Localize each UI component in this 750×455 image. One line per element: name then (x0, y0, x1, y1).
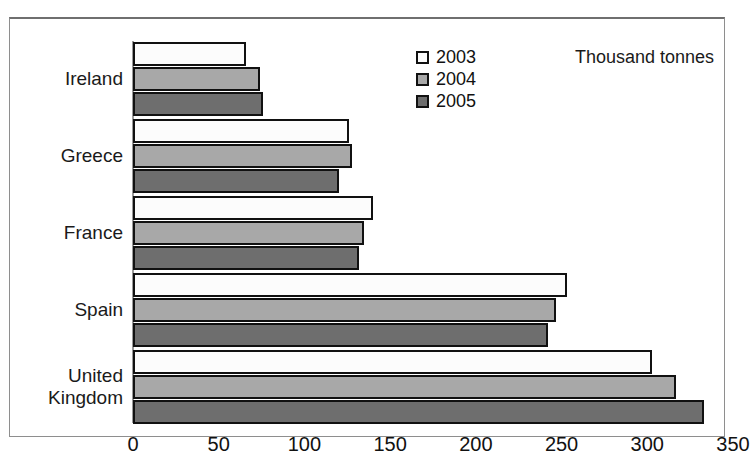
chart-frame: IrelandGreeceFranceSpainUnitedKingdom 20… (9, 17, 725, 437)
legend-item: 2003 (416, 46, 476, 68)
bar (133, 273, 567, 297)
x-axis-tick-label: 100 (288, 433, 321, 455)
bar (133, 323, 548, 347)
legend: 200320042005 (416, 46, 476, 112)
bar (133, 42, 246, 66)
legend-item: 2004 (416, 68, 476, 90)
bar-group: France (133, 195, 733, 272)
x-axis-tick-label: 350 (716, 433, 749, 455)
bar-group: UnitedKingdom (133, 349, 733, 426)
bar (133, 246, 359, 270)
bar (133, 400, 704, 424)
x-axis-tick-label: 0 (127, 433, 138, 455)
x-axis-tick-label: 50 (208, 433, 230, 455)
bar (133, 169, 339, 193)
legend-label: 2004 (436, 68, 476, 90)
bar (133, 144, 352, 168)
cut-off-title (0, 0, 742, 14)
x-axis-tick-label: 300 (631, 433, 664, 455)
category-label: Greece (9, 145, 123, 167)
legend-swatch (416, 73, 429, 86)
x-axis-tick-label: 250 (545, 433, 578, 455)
bar (133, 350, 652, 374)
category-label: France (9, 222, 123, 244)
bar (133, 67, 260, 91)
bar (133, 375, 676, 399)
bar-group: Greece (133, 118, 733, 195)
x-axis: 050100150200250300350 (133, 423, 733, 455)
bar-group: Spain (133, 272, 733, 349)
legend-label: 2005 (436, 90, 476, 112)
x-axis-tick-label: 150 (373, 433, 406, 455)
category-label: Spain (9, 299, 123, 321)
unit-label: Thousand tonnes (575, 47, 714, 68)
bar (133, 196, 373, 220)
bar (133, 92, 263, 116)
bar (133, 298, 556, 322)
legend-item: 2005 (416, 90, 476, 112)
bar (133, 221, 364, 245)
legend-label: 2003 (436, 46, 476, 68)
legend-swatch (416, 51, 429, 64)
legend-swatch (416, 95, 429, 108)
x-axis-tick-label: 200 (459, 433, 492, 455)
category-label: UnitedKingdom (9, 365, 123, 409)
bar (133, 119, 349, 143)
category-label: Ireland (9, 68, 123, 90)
